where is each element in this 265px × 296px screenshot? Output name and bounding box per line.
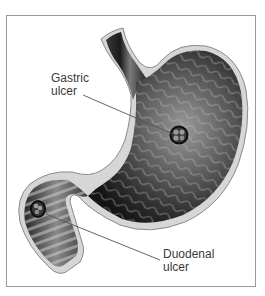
gastric-ulcer-label: Gastric ulcer: [51, 72, 89, 98]
duodenal-ulcer-label-line2: ulcer: [163, 261, 214, 274]
gastric-ulcer-marker: [171, 127, 188, 144]
gastric-ulcer-label-line2: ulcer: [51, 85, 89, 98]
stomach-illustration: [0, 0, 265, 296]
duodenal-ulcer-marker: [31, 201, 45, 217]
duodenal-ulcer-label: Duodenal ulcer: [163, 248, 214, 274]
